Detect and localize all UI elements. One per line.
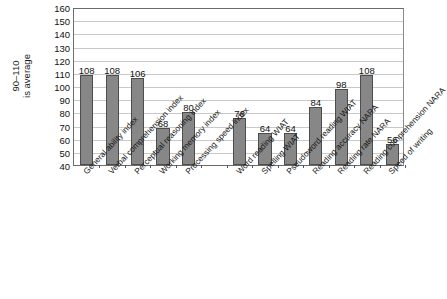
bar-value-label: 108	[359, 65, 375, 76]
y-axis-tick-label: 140	[54, 30, 70, 39]
y-axis-title-line-2: is average	[21, 26, 32, 126]
bar-value-label: 108	[79, 65, 95, 76]
figure-caption	[4, 289, 408, 299]
y-axis-tick-label: 50	[59, 148, 70, 157]
y-axis-tick-label: 100	[54, 83, 70, 92]
y-axis-tick-label: 110	[55, 69, 70, 78]
y-axis-tick-labels: 160150140130120110100908070605040	[48, 8, 70, 166]
y-axis-tick-label: 70	[59, 122, 70, 131]
gridline	[74, 74, 403, 75]
gridline	[74, 34, 403, 35]
bar-value-label: 108	[104, 65, 120, 76]
gridline	[74, 61, 403, 62]
bar-value-label: 98	[336, 79, 347, 90]
bar-value-label: 106	[130, 68, 146, 79]
y-axis-title: 90–110 is average	[10, 26, 38, 126]
y-axis-tick-label: 80	[59, 109, 70, 118]
y-axis-tick-label: 120	[54, 56, 70, 65]
y-axis-tick-label: 90	[59, 96, 70, 105]
bar	[80, 75, 93, 165]
plot-area: 160150140130120110100908070605040 108108…	[48, 8, 404, 166]
x-axis-tick-labels: General ability indexVerbal comprehensio…	[0, 168, 412, 288]
y-axis-title-line-1: 90–110	[10, 26, 21, 126]
bar-value-label: 84	[311, 97, 322, 108]
y-axis-tick-label: 150	[54, 17, 70, 26]
y-axis-tick-label: 130	[54, 43, 70, 52]
y-axis-tick-label: 60	[59, 135, 70, 144]
plot-canvas: 1081081066880766464849810856	[73, 8, 404, 166]
gridline	[74, 48, 403, 49]
gridline	[74, 21, 403, 22]
y-axis-tick-label: 160	[54, 4, 70, 13]
gridline	[74, 87, 403, 88]
